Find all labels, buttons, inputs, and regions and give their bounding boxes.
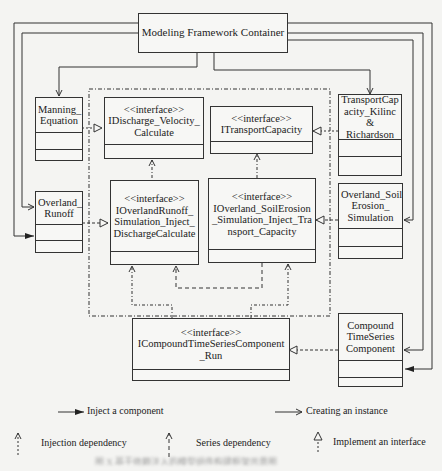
- idischarge-velocity-interface: <<interface>> IDischarge_Velocity_ Calcu…: [104, 97, 204, 159]
- overland-runoff-component: Overland_ Runoff: [35, 191, 83, 253]
- legend-implement-interface: Implement an interface: [333, 436, 426, 447]
- modeling-framework-container: Modeling Framework Container: [138, 13, 288, 53]
- itransportcapacity-interface: <<interface>> ITransportCapacity: [210, 106, 313, 154]
- ioverlandrunoff-simulation-interface: <<interface>> IOverlandRunoff_ Simulatio…: [110, 180, 199, 265]
- interface-name: ITransportCapacity: [213, 124, 310, 136]
- stereotype-label: <<interface>>: [211, 191, 313, 203]
- interface-name: IOverlandRunoff_ Simulation_Inject_ Disc…: [113, 205, 196, 240]
- stereotype-label: <<interface>>: [113, 193, 196, 205]
- component-label: TransportCap acity_Kilinc & Richardson: [339, 95, 401, 139]
- ioverland-soilerosion-interface: <<interface>> IOverland_SoilErosion _Sim…: [208, 178, 316, 263]
- icompoundtimeseries-run-interface: <<interface>> ICompoundTimeSeriesCompone…: [132, 318, 290, 381]
- transport-capacity-component: TransportCap acity_Kilinc & Richardson: [338, 94, 402, 176]
- component-label: Manning_ Equation: [36, 98, 82, 132]
- stereotype-label: <<interface>>: [107, 104, 201, 116]
- stereotype-label: <<interface>>: [213, 113, 310, 125]
- interface-name: IOverland_SoilErosion _Simulation_Inject…: [211, 203, 313, 238]
- component-label: Compound TimeSeries Component: [339, 314, 402, 360]
- compound-timeseries-component: Compound TimeSeries Component: [338, 313, 403, 387]
- stereotype-label: <<interface>>: [135, 327, 287, 339]
- interface-name: ICompoundTimeSeriesComponent _Run: [135, 338, 287, 361]
- interface-name: IDischarge_Velocity_ Calculate: [107, 115, 201, 138]
- figure-caption: 图 X 基于依赖注入的模型组件构建框架示意图: [95, 455, 345, 465]
- overland-soil-erosion-component: Overland_Soil Erosion_ Simulation: [338, 183, 403, 259]
- legend-series-dependency: Series dependency: [196, 437, 271, 448]
- component-label: Overland_ Runoff: [36, 192, 82, 224]
- legend-injection-dependency: Injection dependency: [41, 437, 127, 448]
- container-label: Modeling Framework Container: [139, 25, 287, 41]
- legend-create: Creating an instance: [306, 405, 388, 416]
- legend-inject: Inject a component: [87, 405, 164, 416]
- component-label: Overland_Soil Erosion_ Simulation: [339, 184, 402, 228]
- manning-equation-component: Manning_ Equation: [35, 97, 83, 161]
